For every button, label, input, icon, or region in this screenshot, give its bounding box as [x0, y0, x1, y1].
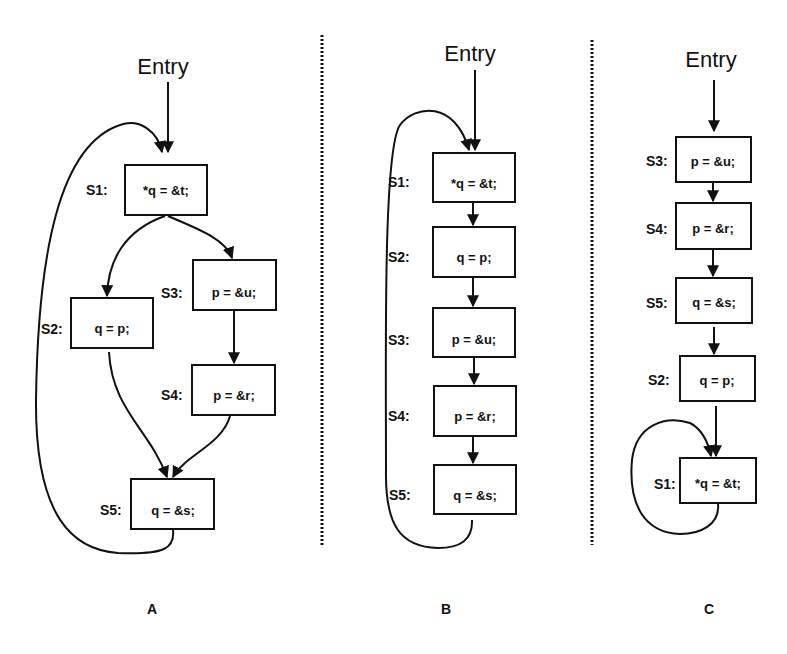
node-code: q = p;	[456, 250, 491, 265]
node-label: S4:	[161, 387, 183, 403]
node-code: p = &u;	[212, 285, 256, 300]
node-s1: S1: *q = &t;	[654, 458, 756, 503]
node-label: S3:	[388, 332, 410, 348]
node-label: S5:	[646, 295, 668, 311]
edge-s2-s5	[109, 352, 167, 477]
node-code: q = &s;	[692, 295, 736, 310]
panel-caption: B	[441, 601, 451, 617]
node-s3: S3: p = &u;	[161, 260, 276, 310]
node-code: *q = &t;	[451, 176, 497, 191]
panel-c: Entry S3: p = &u; S4: p = &r; S5: q = &s…	[631, 47, 756, 617]
entry-label: Entry	[444, 41, 495, 66]
node-label: S5:	[100, 502, 122, 518]
node-s4: S4: p = &r;	[646, 203, 751, 249]
node-s5: S5: q = &s;	[389, 465, 516, 514]
node-label: S2:	[388, 249, 410, 265]
node-code: p = &r;	[454, 409, 496, 424]
node-s5: S5: q = &s;	[100, 479, 214, 529]
panel-caption: A	[147, 601, 157, 617]
node-s4: S4: p = &r;	[388, 386, 516, 436]
node-label: S2:	[648, 372, 670, 388]
node-code: *q = &t;	[695, 476, 741, 491]
node-s5: S5: q = &s;	[646, 278, 752, 323]
node-s2: S2: q = p;	[41, 298, 153, 348]
node-code: q = p;	[94, 321, 129, 336]
panel-caption: C	[704, 601, 714, 617]
node-label: S2:	[41, 321, 63, 337]
node-code: q = &s;	[151, 503, 195, 518]
node-code: p = &r;	[692, 221, 734, 236]
node-label: S3:	[161, 285, 183, 301]
node-code: p = &u;	[452, 332, 496, 347]
node-s1: S1: *q = &t;	[388, 153, 515, 202]
node-s2: S2: q = p;	[388, 227, 515, 277]
node-s4: S4: p = &r;	[161, 365, 275, 415]
node-code: q = &s;	[453, 488, 497, 503]
edge-s4-s5	[173, 416, 230, 477]
panel-b: Entry S1: *q = &t; S2: q = p; S3: p = &u…	[386, 41, 516, 617]
node-s2: S2: q = p;	[648, 356, 755, 401]
node-label: S1:	[654, 476, 676, 492]
entry-label: Entry	[137, 54, 188, 79]
node-label: S1:	[86, 182, 108, 198]
node-label: S5:	[389, 487, 411, 503]
edge-s1-s2	[107, 216, 165, 296]
node-label: S3:	[646, 153, 668, 169]
panel-a: Entry S1: *q = &t; S2: q = p; S3: p = &u…	[36, 54, 276, 617]
node-s1: S1: *q = &t;	[86, 165, 207, 215]
node-s3: S3: p = &u;	[646, 137, 751, 182]
node-s3: S3: p = &u;	[388, 308, 515, 357]
node-label: S4:	[388, 408, 410, 424]
node-code: p = &u;	[691, 154, 735, 169]
node-code: *q = &t;	[143, 183, 189, 198]
node-code: p = &r;	[213, 388, 255, 403]
node-code: q = p;	[699, 373, 734, 388]
entry-label: Entry	[685, 47, 736, 72]
edge-s1-s3	[168, 216, 232, 258]
control-flow-diagram: Entry S1: *q = &t; S2: q = p; S3: p = &u…	[0, 0, 787, 654]
node-label: S4:	[646, 221, 668, 237]
